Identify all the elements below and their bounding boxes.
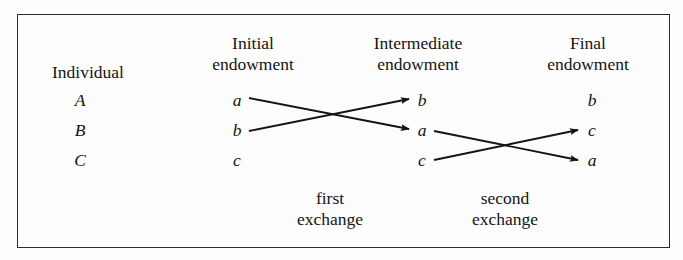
individual-header-label: Individual bbox=[52, 62, 124, 83]
intermediate-endowment-row-b: a bbox=[418, 120, 427, 141]
second-exchange-line1: second bbox=[472, 188, 538, 209]
initial-header-line2: endowment bbox=[212, 54, 294, 75]
final-endowment-row-a: b bbox=[588, 90, 597, 111]
initial-endowment-row-a: a bbox=[233, 90, 242, 111]
initial-header-line1: Initial bbox=[212, 33, 294, 54]
individual-row-label-a: A bbox=[75, 90, 86, 111]
first-exchange-line1: first bbox=[297, 188, 363, 209]
first-exchange-line2: exchange bbox=[297, 209, 363, 230]
individual-row-label-c: C bbox=[74, 150, 86, 171]
column-header-final-endowment: Final endowment bbox=[547, 33, 629, 74]
caption-second-exchange: second exchange bbox=[472, 188, 538, 229]
intermediate-endowment-row-c: c bbox=[418, 150, 426, 171]
column-header-initial-endowment: Initial endowment bbox=[212, 33, 294, 74]
caption-first-exchange: first exchange bbox=[297, 188, 363, 229]
initial-endowment-row-b: b bbox=[233, 120, 242, 141]
column-header-intermediate-endowment: Intermediate endowment bbox=[374, 33, 462, 74]
final-header-line2: endowment bbox=[547, 54, 629, 75]
final-endowment-row-b: c bbox=[588, 120, 596, 141]
column-header-individual: Individual bbox=[52, 62, 124, 83]
second-exchange-line2: exchange bbox=[472, 209, 538, 230]
exchange-diagram-figure: Individual Initial endowment Intermediat… bbox=[0, 0, 683, 260]
final-header-line1: Final bbox=[547, 33, 629, 54]
intermediate-header-line1: Intermediate bbox=[374, 33, 462, 54]
individual-row-label-b: B bbox=[75, 120, 86, 141]
intermediate-endowment-row-a: b bbox=[418, 90, 427, 111]
final-endowment-row-c: a bbox=[588, 150, 597, 171]
intermediate-header-line2: endowment bbox=[374, 54, 462, 75]
initial-endowment-row-c: c bbox=[233, 150, 241, 171]
